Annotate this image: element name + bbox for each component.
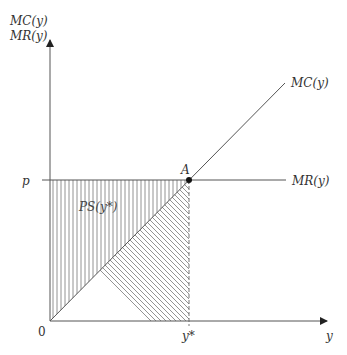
producer-surplus-label: PS(y*) [78, 200, 118, 214]
producer-surplus-diagram: MC(y) MR(y) p A MC(y) MR(y) PS(y*) 0 y* … [0, 0, 347, 355]
y-axis-label-mc: MC(y) [9, 14, 48, 28]
mc-curve-label: MC(y) [290, 76, 329, 90]
point-a [186, 177, 192, 183]
price-label: p [22, 174, 30, 188]
point-a-label: A [180, 163, 190, 177]
mr-curve-label: MR(y) [291, 174, 330, 188]
origin-label: 0 [38, 325, 46, 339]
y-axis-label-mr: MR(y) [9, 29, 48, 43]
y-star-label: y* [181, 329, 195, 343]
x-axis-label: y [325, 329, 333, 343]
